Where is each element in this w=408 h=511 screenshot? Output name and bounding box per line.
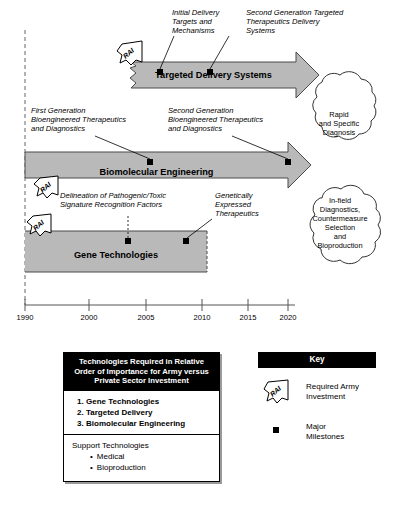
priority-legend-list: Gene Technologies Targeted Delivery Biom… [64,391,219,436]
callout-genetically-expressed: Genetically Expressed Therapeutics [215,191,285,219]
support-technologies-title: Support Technologies [72,440,213,451]
roadmap-page: RAI RAI RAI [0,0,408,511]
support-item-bioproduction: Bioproduction [90,463,213,474]
axis-tick-label-1990: 1990 [10,313,40,322]
axis-tick-label-2020: 2020 [273,313,303,322]
priority-legend-header: Technologies Required in Relative Order … [64,353,219,391]
axis-tick-label-2000: 2000 [74,313,104,322]
priority-item-3: Biomolecular Engineering [86,418,213,429]
priority-item-1: Gene Technologies [86,396,213,407]
callout-second-gen-targeted: Second Generation Targeted Therapeutics … [246,8,366,36]
callout-first-gen-bioeng: First Generation Bioengineered Therapeut… [31,106,146,134]
priority-legend-box: Technologies Required in Relative Order … [63,352,220,482]
callout-initial-delivery: Initial Delivery Targets and Mechanisms [172,8,242,36]
key-label-major-milestones: Major Milestones [306,422,388,443]
priority-item-2: Targeted Delivery [86,407,213,418]
milestone-marker [183,238,189,244]
milestone-marker [285,159,291,165]
support-item-medical: Medical [90,452,213,463]
axis-tick-label-2015: 2015 [233,313,263,322]
cloud-text-rapid-specific-diagnosis: Rapid and Specific Diagnosis [306,110,372,137]
bar-label-targeted-delivery-systems: Targeted Delivery Systems [131,70,296,80]
cloud-text-in-field-diagnostics: In-field Diagnostics, Countermeasure Sel… [302,196,378,250]
rai-flag-icon: RAI [258,378,298,408]
axis-tick-label-2005: 2005 [131,313,161,322]
bar-label-gene-technologies: Gene Technologies [25,250,207,260]
support-technologies-section: Support Technologies Medical Bioproducti… [64,435,219,480]
milestone-marker [147,159,153,165]
key-label-required-army-investment: Required Army Investment [306,382,388,403]
badge-rai-targeted-delivery: RAI [117,41,142,65]
callout-delineation: Delineation of Pathogenic/Toxic Signatur… [60,191,210,209]
bar-biomolecular-engineering[interactable] [25,142,311,188]
key-panel-header: Key [258,352,376,368]
bar-label-biomolecular-engineering: Biomolecular Engineering [25,167,288,177]
badge-rai-biomolecular: RAI [34,176,58,198]
callout-second-gen-bioeng: Second Generation Bioengineered Therapeu… [168,106,283,134]
milestone-marker [125,238,131,244]
key-panel: Key RAI Required Army Investment Major M… [258,352,390,368]
axis-tick-label-2010: 2010 [187,313,217,322]
black-square-icon [273,427,279,433]
roadmap-graphic: RAI RAI RAI [0,0,408,330]
